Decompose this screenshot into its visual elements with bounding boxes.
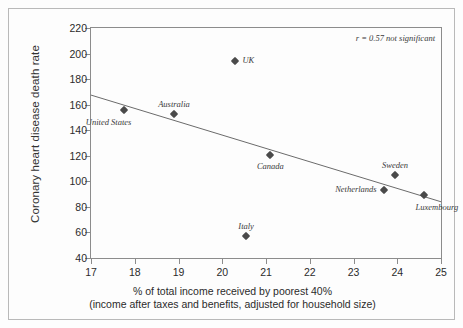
data-point-label: Luxembourg (416, 202, 459, 212)
y-tick-label: 40 (47, 252, 87, 264)
data-point-label: Australia (158, 99, 190, 109)
x-tick-label: 20 (207, 266, 237, 278)
figure-border-left (8, 8, 9, 320)
trendline (91, 28, 441, 258)
y-tick-label: 200 (47, 48, 87, 60)
data-point-label: United States (86, 117, 132, 127)
x-tick-label: 23 (339, 266, 369, 278)
data-point-label: Canada (257, 161, 284, 171)
data-point-label: Sweden (382, 160, 408, 170)
plot-area: United StatesAustraliaUKItalyCanadaNethe… (90, 27, 442, 259)
correlation-annotation: r = 0.57 not significant (356, 33, 435, 43)
x-tick (135, 258, 136, 264)
x-tick (397, 258, 398, 264)
x-axis-label-line1: % of total income received by poorest 40… (60, 285, 405, 298)
data-point-label: UK (242, 55, 254, 65)
figure-border-bottom (8, 319, 455, 320)
x-tick-label: 17 (76, 266, 106, 278)
x-tick (222, 258, 223, 264)
x-tick (310, 258, 311, 264)
x-tick-label: 18 (120, 266, 150, 278)
x-tick-label: 25 (426, 266, 456, 278)
y-tick-label: 140 (47, 124, 87, 136)
x-tick-label: 19 (164, 266, 194, 278)
y-tick-label: 220 (47, 22, 87, 34)
x-tick-label: 21 (251, 266, 281, 278)
x-tick-label: 22 (295, 266, 325, 278)
data-point-label: Italy (238, 221, 254, 231)
x-tick (266, 258, 267, 264)
plot-inner: United StatesAustraliaUKItalyCanadaNethe… (91, 28, 441, 258)
figure-border-top (8, 8, 455, 9)
y-axis-label: Coronary heart disease death rate (29, 9, 41, 259)
x-tick-label: 24 (382, 266, 412, 278)
y-tick-label: 80 (47, 201, 87, 213)
x-tick (441, 258, 442, 264)
y-tick-label: 180 (47, 73, 87, 85)
x-axis-label-line2: (income after taxes and benefits, adjust… (60, 298, 405, 311)
x-tick (354, 258, 355, 264)
figure-panel: Coronary heart disease death rate United… (0, 0, 463, 328)
y-tick-label: 100 (47, 175, 87, 187)
y-tick-label: 160 (47, 99, 87, 111)
x-tick (179, 258, 180, 264)
x-tick (91, 258, 92, 264)
x-axis-label: % of total income received by poorest 40… (60, 285, 405, 311)
data-point-label: Netherlands (335, 184, 377, 194)
y-tick-label: 60 (47, 226, 87, 238)
y-tick-label: 120 (47, 150, 87, 162)
